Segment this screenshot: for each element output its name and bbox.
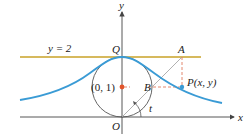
label-Q: Q <box>112 43 120 55</box>
label-t: t <box>149 102 153 114</box>
line-label: y = 2 <box>47 42 72 54</box>
label-O: O <box>112 120 120 132</box>
witch-of-agnesi-diagram: y x y = 2 Q A (0, 1) B P(x, y) O t <box>0 0 249 136</box>
label-center: (0, 1) <box>91 81 115 94</box>
point-P <box>180 85 184 89</box>
y-axis-label: y <box>118 0 124 11</box>
label-B: B <box>144 81 151 93</box>
angle-arc <box>135 104 141 117</box>
label-A: A <box>177 43 185 55</box>
x-axis-label: x <box>237 111 243 123</box>
center-dot <box>120 85 125 90</box>
label-P: P(x, y) <box>186 76 217 89</box>
